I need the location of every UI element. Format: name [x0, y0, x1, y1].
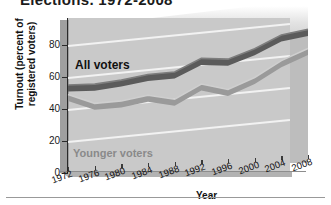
y-axis-tick [62, 109, 67, 110]
y-axis-tick-label: 40 [38, 104, 60, 114]
y-axis-line [67, 18, 68, 174]
plot-right-wall [290, 32, 308, 163]
y-axis-tick [62, 77, 67, 78]
footer-rule [6, 197, 325, 198]
y-axis-tick-label: 20 [38, 136, 60, 146]
y-axis-tick [62, 141, 67, 142]
series-label-all-voters: All voters [75, 58, 130, 72]
chart-figure: Elections, 1972-2008 020406080 Turnout (… [0, 0, 331, 205]
y-axis-tick-label: 80 [38, 40, 60, 50]
y-axis-title: Turnout (percent of registered voters) [14, 0, 38, 134]
y-axis-tick-label: 60 [38, 72, 60, 82]
x-axis-title: Year [196, 190, 217, 201]
series-label-younger-voters: Younger voters [73, 147, 153, 159]
y-axis-tick [62, 45, 67, 46]
